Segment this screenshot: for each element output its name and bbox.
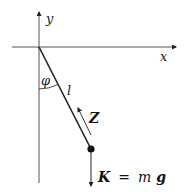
tension-label: Z (88, 110, 100, 126)
x-axis-label: x (160, 49, 168, 64)
angle-label: φ (41, 73, 51, 88)
diagram-svg: y x φ l Z K = m g (0, 0, 184, 192)
gravity-symbol: g (156, 169, 166, 185)
y-axis-label: y (45, 11, 54, 26)
pendulum-rod (39, 47, 91, 149)
pendulum-diagram: y x φ l Z K = m g (0, 0, 184, 192)
force-symbol: K (97, 169, 111, 185)
mass-symbol: m (138, 169, 151, 185)
length-label: l (67, 83, 71, 98)
pendulum-bob (87, 145, 94, 152)
equals-sign: = (118, 169, 130, 185)
force-equation: K = m g (97, 168, 166, 185)
